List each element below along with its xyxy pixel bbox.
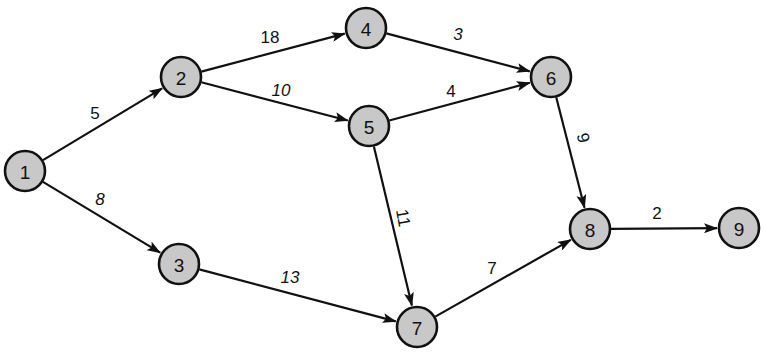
edge-7-8 [435, 240, 571, 317]
node-label: 1 [20, 162, 31, 183]
node-6: 6 [531, 57, 571, 97]
edge-weight-label: 18 [261, 28, 280, 47]
node-label: 2 [176, 68, 187, 89]
edge-weight-label: 9 [573, 131, 594, 145]
edge-weight-label: 5 [90, 104, 99, 123]
edge-8-9 [611, 228, 717, 229]
edge-6-8 [556, 97, 584, 207]
edge-1-2 [43, 88, 162, 160]
node-5: 5 [349, 106, 389, 146]
network-diagram: 581810341113972 123456789 [0, 0, 765, 361]
node-label: 3 [174, 255, 185, 276]
node-8: 8 [570, 209, 610, 249]
node-label: 9 [734, 219, 745, 240]
node-7: 7 [397, 307, 437, 347]
node-2: 2 [161, 57, 201, 97]
node-label: 6 [546, 68, 557, 89]
node-1: 1 [5, 151, 45, 191]
node-3: 3 [159, 244, 199, 284]
node-label: 4 [361, 19, 372, 40]
edges-layer [43, 33, 717, 321]
edge-weight-label: 7 [487, 259, 496, 278]
edge-weight-label: 3 [453, 25, 463, 44]
edge-weight-label: 4 [446, 82, 455, 101]
node-label: 8 [585, 220, 596, 241]
node-4: 4 [346, 8, 386, 48]
edge-weight-label: 8 [95, 190, 105, 209]
edge-weight-label: 10 [272, 81, 291, 100]
edge-weight-label: 2 [652, 204, 661, 223]
diagram-canvas: 581810341113972 123456789 [0, 0, 765, 361]
edge-weight-label: 11 [392, 208, 414, 229]
edge-weight-label: 13 [281, 268, 300, 287]
node-label: 5 [364, 117, 375, 138]
edge-5-6 [389, 83, 529, 121]
node-9: 9 [719, 208, 759, 248]
node-label: 7 [412, 318, 423, 339]
